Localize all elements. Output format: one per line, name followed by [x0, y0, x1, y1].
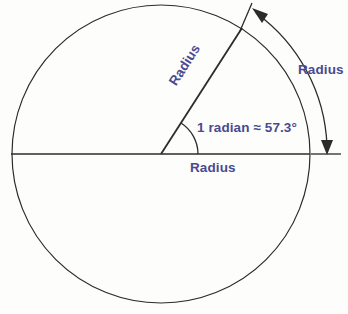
label-angle-measure: 1 radian ≈ 57.3°	[197, 120, 297, 135]
arc-start-tick	[240, 3, 252, 31]
arc-end-arrowhead	[321, 140, 333, 155]
angled-radius-line	[161, 28, 242, 154]
label-radius-horizontal: Radius	[190, 160, 236, 175]
label-radius-arc: Radius	[298, 62, 344, 77]
radian-diagram-figure: Radius Radius Radius 1 radian ≈ 57.3°	[0, 0, 348, 314]
central-angle-arc	[181, 123, 198, 154]
diagram-canvas	[0, 0, 348, 314]
